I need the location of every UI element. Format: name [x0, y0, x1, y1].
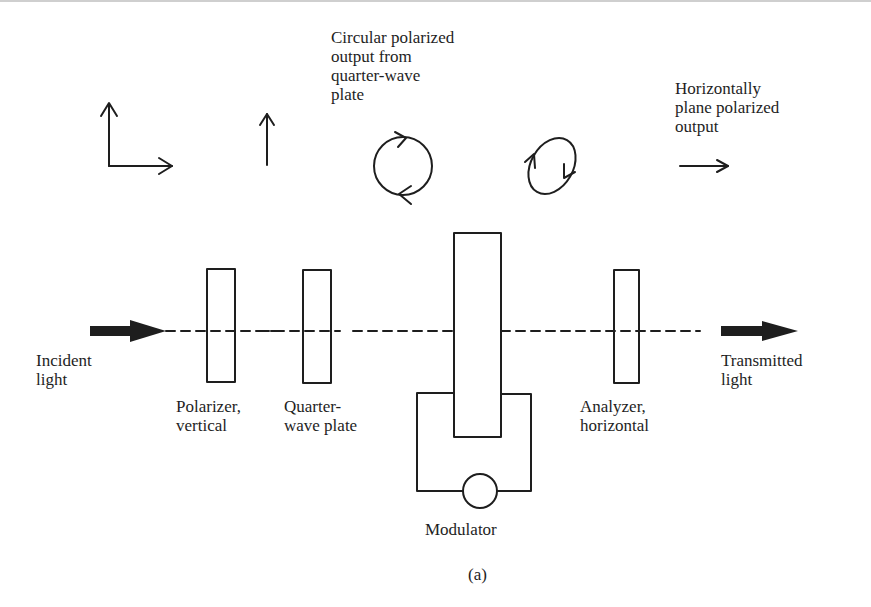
modulator-label: Modulator	[425, 520, 497, 539]
label-line: output	[675, 117, 779, 136]
polarizer-plate	[207, 269, 235, 382]
analyzer-plate	[614, 270, 639, 383]
analyzer-label: Analyzer,horizontal	[580, 397, 649, 435]
label-line: plate	[331, 85, 454, 104]
incident-light-label: Incidentlight	[36, 351, 92, 389]
label-line: Polarizer,	[176, 397, 241, 416]
label-line: Transmitted	[721, 351, 803, 370]
label-line: Analyzer,	[580, 397, 649, 416]
label-line: horizontal	[580, 416, 649, 435]
label-line: wave plate	[284, 416, 357, 435]
label-line: plane polarized	[675, 98, 779, 117]
polarizer-label: Polarizer,vertical	[176, 397, 241, 435]
two-perpendicular-arrows-icon	[101, 103, 172, 174]
voltage-source-icon	[463, 474, 497, 508]
label-line: Incident	[36, 351, 92, 370]
modulator-crystal	[454, 233, 501, 437]
label-line: light	[721, 370, 803, 389]
label-line: quarter-wave	[331, 66, 454, 85]
transmitted-light-label: Transmittedlight	[721, 351, 803, 389]
elliptical-polarization-icon	[519, 130, 585, 203]
circular-output-label: Circular polarizedoutput fromquarter-wav…	[331, 28, 454, 104]
horizontal-arrow-icon	[680, 160, 728, 172]
figure-caption: (a)	[468, 565, 487, 584]
label-line: output from	[331, 47, 454, 66]
label-line: vertical	[176, 416, 241, 435]
label-line: Horizontally	[675, 79, 779, 98]
label-line: Circular polarized	[331, 28, 454, 47]
vertical-arrow-icon	[260, 114, 274, 165]
label-line: light	[36, 370, 92, 389]
incident-light-arrow-icon	[90, 320, 166, 342]
horizontal-output-label: Horizontallyplane polarizedoutput	[675, 79, 779, 136]
transmitted-light-arrow-icon	[721, 321, 798, 341]
label-line: Quarter-	[284, 397, 357, 416]
quarter-wave-plate	[303, 270, 331, 383]
label-line: Modulator	[425, 520, 497, 539]
circular-polarization-icon	[374, 132, 432, 204]
quarter-wave-plate-label: Quarter-wave plate	[284, 397, 357, 435]
